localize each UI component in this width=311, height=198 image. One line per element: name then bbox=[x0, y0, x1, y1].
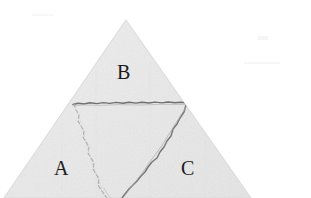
region-label-b: B bbox=[117, 62, 130, 82]
scan-artifacts bbox=[32, 14, 280, 64]
figure-canvas: A B C bbox=[0, 0, 311, 198]
triangle-diagram-svg bbox=[0, 0, 311, 198]
region-label-c: C bbox=[181, 158, 194, 178]
region-label-a: A bbox=[54, 158, 68, 178]
triangle-fill bbox=[4, 20, 251, 198]
triangle-body bbox=[4, 20, 251, 198]
